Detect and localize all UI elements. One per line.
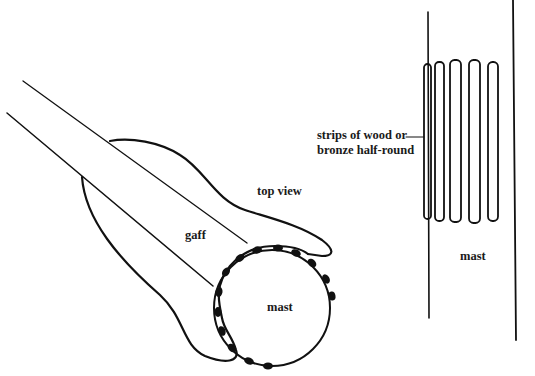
mast-left-edge <box>428 12 429 318</box>
mast-side-view <box>406 0 516 340</box>
strip-3 <box>450 60 461 222</box>
label-mast-side: mast <box>460 249 486 263</box>
mast-right-edge <box>513 0 516 340</box>
label-strips-line1: strips of wood or <box>317 128 407 142</box>
label-gaff: gaff <box>185 228 206 242</box>
chafe-strips-side <box>424 60 498 223</box>
strip-5 <box>488 62 498 221</box>
strip-4 <box>469 60 480 223</box>
label-mast-section: mast <box>267 300 293 314</box>
gaff-upper-edge <box>23 81 247 243</box>
gaff-top-view <box>7 81 331 366</box>
gaff-lower-edge <box>7 113 213 286</box>
label-top-view: top view <box>257 184 302 198</box>
label-strips-line2: bronze half-round <box>317 143 414 157</box>
strip-2 <box>435 62 444 221</box>
